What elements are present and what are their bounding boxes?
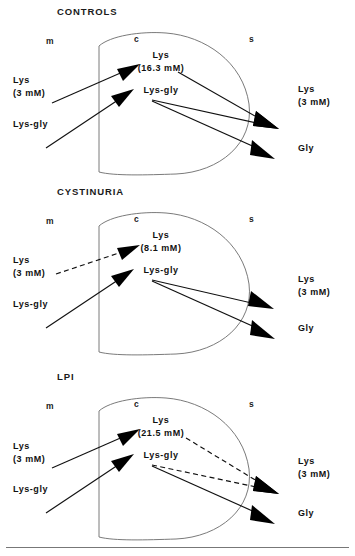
arrow-dipeptide-to-lys-line bbox=[152, 280, 256, 304]
serosal-lys-conc: (3 mM) bbox=[298, 469, 330, 479]
mucosal-lys-name: Lys bbox=[13, 441, 30, 451]
panel-lpi: LPI m c s Lys (3 mM) Lys-gly bbox=[0, 368, 355, 554]
serosal-lys-label: Lys (3 mM) bbox=[298, 273, 330, 298]
arrow-dipeptide-to-lys-head bbox=[248, 291, 274, 309]
arrow-dipeptide-to-lys-head bbox=[253, 111, 279, 129]
arrow-gly-efflux-head bbox=[250, 140, 275, 159]
serosal-lys-name: Lys bbox=[298, 274, 315, 284]
footer-divider bbox=[6, 547, 349, 548]
mucosal-lys-conc: (3 mM) bbox=[13, 88, 45, 98]
mucosal-dipeptide-label: Lys-gly bbox=[13, 298, 48, 311]
arrow-dipeptide-uptake-line bbox=[46, 100, 118, 148]
serosal-lys-conc: (3 mM) bbox=[298, 97, 330, 107]
arrow-gly-efflux-line bbox=[152, 281, 257, 328]
arrow-dipeptide-uptake-line bbox=[46, 465, 118, 513]
cell-lys-label: Lys (16.3 mM) bbox=[119, 49, 203, 74]
cell-lys-name: Lys bbox=[153, 230, 170, 240]
mucosal-lys-name: Lys bbox=[13, 75, 30, 85]
mucosal-lys-conc: (3 mM) bbox=[13, 454, 45, 464]
serosal-lys-name: Lys bbox=[298, 84, 315, 94]
mucosal-lys-conc: (3 mM) bbox=[13, 268, 45, 278]
panel-cystinuria: CYSTINURIA m c s Lys (3 mM) Lys-gly Lys bbox=[0, 183, 355, 369]
cell-dipeptide-label: Lys-gly bbox=[119, 84, 203, 97]
panel-controls: CONTROLS m c s Lys (3 mM) Lys-g bbox=[0, 0, 355, 186]
serosal-lys-label: Lys (3 mM) bbox=[298, 83, 330, 108]
serosal-lys-label: Lys (3 mM) bbox=[298, 455, 330, 480]
mucosal-lys-label: Lys (3 mM) bbox=[13, 254, 45, 279]
cell-dipeptide-label: Lys-gly bbox=[117, 449, 205, 462]
cell-lys-label: Lys (21.5 mM) bbox=[117, 414, 205, 439]
serosal-lys-name: Lys bbox=[298, 456, 315, 466]
arrow-gly-efflux-head bbox=[250, 320, 275, 339]
mucosal-dipeptide-label: Lys-gly bbox=[13, 483, 48, 496]
arrow-lys-uptake-line bbox=[56, 251, 125, 274]
serosal-gly-label: Gly bbox=[298, 322, 314, 335]
cell-lys-name: Lys bbox=[153, 50, 170, 60]
mucosal-dipeptide-label: Lys-gly bbox=[13, 118, 48, 131]
serosal-gly-label: Gly bbox=[298, 507, 314, 520]
mucosal-lys-label: Lys (3 mM) bbox=[13, 74, 45, 99]
serosal-gly-label: Gly bbox=[298, 142, 314, 155]
arrow-dipeptide-to-lys-head bbox=[253, 476, 279, 494]
arrow-dipeptide-to-lys-line bbox=[152, 465, 261, 488]
mucosal-lys-label: Lys (3 mM) bbox=[13, 440, 45, 465]
mucosal-lys-name: Lys bbox=[13, 255, 30, 265]
arrow-dipeptide-to-lys-line bbox=[152, 100, 261, 124]
arrow-gly-efflux-line bbox=[152, 466, 257, 513]
arrow-dipeptide-uptake-line bbox=[46, 280, 118, 328]
arrow-gly-efflux-head bbox=[250, 505, 275, 524]
cell-lys-conc: (8.1 mM) bbox=[141, 243, 182, 253]
transport-diagram-figure: CONTROLS m c s Lys (3 mM) Lys-g bbox=[0, 0, 355, 556]
cell-lys-conc: (21.5 mM) bbox=[138, 428, 184, 438]
cell-dipeptide-label: Lys-gly bbox=[119, 264, 203, 277]
cell-lys-conc: (16.3 mM) bbox=[138, 63, 184, 73]
cell-lys-name: Lys bbox=[153, 415, 170, 425]
cell-lys-label: Lys (8.1 mM) bbox=[119, 229, 203, 254]
serosal-lys-conc: (3 mM) bbox=[298, 287, 330, 297]
